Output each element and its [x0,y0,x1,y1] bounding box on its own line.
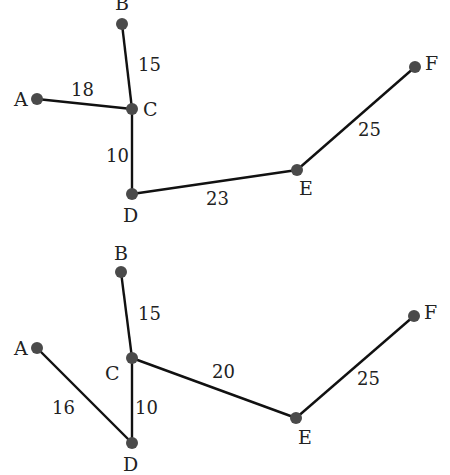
top-graph: 1815102325ABCDEF [13,0,438,226]
edge-weight-BC: 15 [138,303,161,324]
node-label-A: A [13,88,28,110]
edge-weight-CD: 10 [135,397,158,418]
node-B [116,18,128,30]
node-A [31,93,43,105]
node-F [408,310,420,322]
edge-EF [297,67,415,170]
node-label-F: F [424,301,437,323]
node-B [115,266,127,278]
edge-BC [122,24,132,109]
edge-weight-AC: 18 [71,79,94,100]
node-label-E: E [299,177,313,199]
node-label-B: B [114,242,128,264]
edge-weight-CE: 20 [212,361,235,382]
node-label-B: B [115,0,129,14]
bottom-graph: 1615102025ABCDEF [13,242,437,475]
node-D [126,188,138,200]
edge-weight-BC: 15 [138,54,161,75]
node-label-A: A [13,337,28,359]
node-label-E: E [298,426,312,448]
edge-weight-DE: 23 [206,188,229,209]
edge-EF [296,316,414,418]
node-label-C: C [105,362,120,384]
edge-weight-CD: 10 [106,145,129,166]
edge-weight-AD: 16 [52,397,75,418]
node-F [409,61,421,73]
node-E [291,164,303,176]
edge-weight-EF: 25 [357,368,380,389]
node-D [126,437,138,449]
node-label-C: C [143,98,158,120]
node-label-D: D [123,453,138,475]
node-label-D: D [123,204,138,226]
node-E [290,412,302,424]
node-C [126,103,138,115]
edge-AC [37,99,132,109]
graph-diagram: 1815102325ABCDEF1615102025ABCDEF [0,0,450,475]
node-C [126,352,138,364]
node-A [31,342,43,354]
edge-BC [121,272,132,358]
node-label-F: F [425,52,438,74]
edge-weight-EF: 25 [358,119,381,140]
